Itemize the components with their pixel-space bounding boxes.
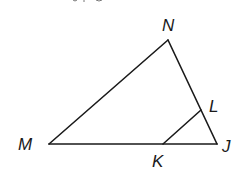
top-cut-text	[70, 0, 130, 3]
segment-KL	[163, 110, 201, 144]
triangle-diagram: N L M J K	[0, 0, 237, 181]
label-J: J	[221, 137, 231, 156]
segment-MN	[49, 40, 168, 144]
segment-NJ	[168, 40, 217, 144]
label-N: N	[162, 16, 175, 35]
label-L: L	[209, 97, 218, 116]
label-M: M	[18, 135, 33, 154]
label-K: K	[152, 152, 164, 171]
